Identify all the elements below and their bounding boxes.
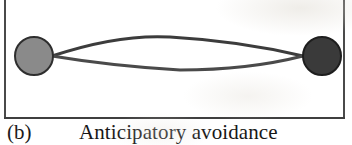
figure-panel: (b) Anticipatory avoidance <box>0 0 352 145</box>
figure-caption: (b) Anticipatory avoidance <box>0 119 352 145</box>
figure-caption-text: Anticipatory avoidance <box>79 119 278 145</box>
avoidance-diagram <box>0 0 352 122</box>
panel-letter-label: (b) <box>7 119 32 145</box>
lower-path-curve <box>52 56 303 70</box>
left-node-circle <box>15 37 53 75</box>
upper-path-curve <box>52 37 303 56</box>
right-node-circle <box>303 37 341 75</box>
